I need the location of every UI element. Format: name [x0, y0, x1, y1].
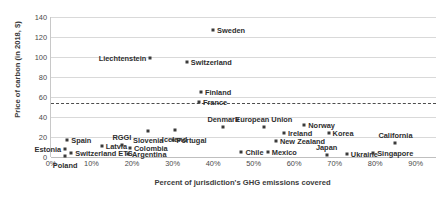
data-point-label: Argentina [132, 151, 167, 158]
data-point-label: California [378, 132, 412, 139]
data-point-label: Mexico [272, 149, 297, 156]
data-point-label: Estonia [34, 146, 61, 153]
data-point-label: Singapore [377, 150, 413, 157]
data-point-label: RGGI [112, 134, 131, 141]
x-tick-label: 50% [246, 159, 261, 168]
data-point-label: Sweden [217, 27, 245, 34]
x-tick-label: 60% [287, 159, 302, 168]
threshold-line [51, 103, 436, 104]
data-point[interactable] [149, 57, 152, 60]
y-tick-label: 100 [23, 54, 47, 61]
data-point[interactable] [266, 151, 269, 154]
data-point[interactable] [240, 151, 243, 154]
y-tick-label: 20 [23, 134, 47, 141]
data-point[interactable] [212, 29, 215, 32]
gridline [51, 97, 436, 98]
data-point[interactable] [283, 132, 286, 135]
data-point[interactable] [303, 124, 306, 127]
y-tick-label: 140 [23, 14, 47, 21]
data-point-label: Spain [71, 137, 91, 144]
x-tick-label: 20% [125, 159, 140, 168]
y-tick-label: 120 [23, 34, 47, 41]
x-tick-label: 80% [368, 159, 383, 168]
data-point[interactable] [325, 154, 328, 157]
y-tick-label: 0 [23, 154, 47, 161]
data-point-label: Portugal [177, 137, 207, 144]
data-point[interactable] [262, 126, 265, 129]
data-point[interactable] [274, 140, 277, 143]
data-point[interactable] [66, 139, 69, 142]
data-point[interactable] [171, 139, 174, 142]
data-point[interactable] [64, 148, 67, 151]
data-point[interactable] [197, 101, 200, 104]
data-point-label: Liechtenstein [99, 55, 147, 62]
data-point[interactable] [120, 144, 123, 147]
data-point[interactable] [222, 126, 225, 129]
data-point[interactable] [70, 152, 73, 155]
data-point[interactable] [100, 145, 103, 148]
data-point[interactable] [147, 130, 150, 133]
data-point[interactable] [345, 153, 348, 156]
gridline [51, 77, 436, 78]
data-point[interactable] [199, 91, 202, 94]
data-point-label: Korea [333, 130, 354, 137]
data-point-label: Switzerland ETS [75, 150, 133, 157]
data-point-label: European Union [235, 116, 292, 123]
data-point-label: Chile [245, 149, 263, 156]
gridline [51, 17, 436, 18]
y-tick-label: 80 [23, 74, 47, 81]
data-point-label: Poland [53, 162, 78, 169]
data-point[interactable] [372, 152, 375, 155]
x-tick-label: 90% [408, 159, 423, 168]
x-tick-label: 30% [165, 159, 180, 168]
data-point[interactable] [64, 155, 67, 158]
y-tick-label: 40 [23, 114, 47, 121]
data-point-label: Norway [308, 122, 335, 129]
data-point-label: Finland [205, 89, 231, 96]
y-tick-label: 60 [23, 94, 47, 101]
data-point-label: France [203, 99, 227, 106]
data-point[interactable] [327, 132, 330, 135]
x-tick-label: 40% [206, 159, 221, 168]
y-axis-title: Price of carbon (in 2018, $) [13, 0, 22, 145]
data-point[interactable] [173, 129, 176, 132]
data-point[interactable] [394, 142, 397, 145]
x-axis-title: Percent of jurisdiction's GHG emissions … [50, 178, 435, 187]
gridline [51, 37, 436, 38]
x-tick-label: 70% [327, 159, 342, 168]
plot-area: 020406080100120140 0%10%20%30%40%50%60%7… [50, 17, 435, 157]
data-point[interactable] [185, 61, 188, 64]
x-tick-label: 10% [84, 159, 99, 168]
scatter-chart: Price of carbon (in 2018, $) 02040608010… [0, 0, 442, 198]
data-point-label: Switzerland [191, 59, 232, 66]
data-point-label: Japan [316, 144, 337, 151]
